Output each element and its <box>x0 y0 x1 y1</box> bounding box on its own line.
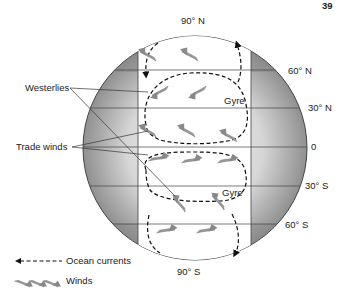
lat-60n: 60° N <box>288 65 312 76</box>
lat-90s: 90° S <box>177 266 200 277</box>
gyre-label-north: Gyre <box>224 95 245 106</box>
lat-30s: 30° S <box>305 180 328 191</box>
gyre-label-south: Gyre <box>222 187 243 198</box>
legend-winds: Winds <box>66 275 93 286</box>
westerlies-label: Westerlies <box>25 82 69 93</box>
lat-30n: 30° N <box>308 102 332 113</box>
lat-60s: 60° S <box>285 219 308 230</box>
legend: Ocean currents Winds <box>15 255 132 293</box>
ocean-gyre-diagram: 39 <box>0 0 339 297</box>
page-number: 39 <box>322 0 333 11</box>
lat-90n: 90° N <box>181 15 205 26</box>
trade-winds-label: Trade winds <box>16 141 68 152</box>
wind-legend-icon <box>15 273 62 293</box>
lat-0: 0 <box>311 141 316 152</box>
ocean-current-legend-icon <box>15 258 62 264</box>
legend-ocean-currents: Ocean currents <box>66 255 131 266</box>
